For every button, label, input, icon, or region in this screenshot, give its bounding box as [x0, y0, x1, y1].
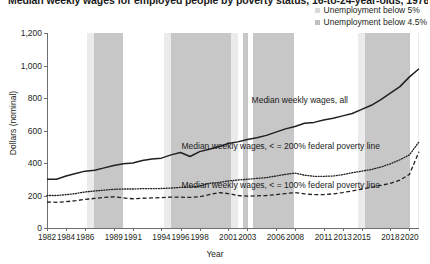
x-axis-tick-label: 1991 — [124, 233, 142, 242]
x-axis-tick-label: 2006 — [267, 233, 285, 242]
x-axis-tick-label: 2011 — [315, 233, 333, 242]
x-axis-tick — [228, 228, 229, 231]
x-axis-tick — [47, 228, 48, 231]
series-line — [47, 69, 419, 180]
x-axis-tick-label: 1994 — [152, 233, 170, 242]
y-axis-tick-label: 0 — [37, 223, 42, 233]
legend-item: Unemployment below 4.5% — [315, 17, 427, 27]
x-axis-title: Year — [0, 249, 430, 259]
x-axis-tick — [247, 228, 248, 231]
x-axis-tick — [343, 228, 344, 231]
legend-label: Unemployment below 4.5% — [324, 17, 427, 27]
x-axis-tick — [114, 228, 115, 231]
x-axis-tick-label: 1984 — [57, 233, 75, 242]
x-axis-tick — [66, 228, 67, 231]
x-axis-tick-label: 1982 — [38, 233, 56, 242]
y-axis-labels: 02004006008001,0001,200 — [0, 0, 42, 264]
x-axis-tick — [276, 228, 277, 231]
series-annotation: Median weekly wages, all — [252, 95, 348, 105]
x-axis-tick-label: 2020 — [400, 233, 418, 242]
x-axis-tick-label: 1989 — [105, 233, 123, 242]
series-annotation: Median weekly wages, < = 100% federal po… — [181, 180, 379, 190]
x-axis-tick — [200, 228, 201, 231]
x-axis-tick-label: 1996 — [171, 233, 189, 242]
y-axis-tick-label: 400 — [28, 158, 42, 168]
x-axis-tick-label: 2003 — [238, 233, 256, 242]
x-axis-tick-label: 2015 — [353, 233, 371, 242]
y-axis-tick-label: 200 — [28, 191, 42, 201]
x-axis-tick — [85, 228, 86, 231]
series-line — [47, 152, 419, 203]
y-axis-title: Dollars (nominal) — [8, 58, 18, 188]
legend-item: Unemployment below 5% — [315, 5, 420, 15]
x-axis-tick-label: 2001 — [219, 233, 237, 242]
x-axis-tick — [390, 228, 391, 231]
legend-label: Unemployment below 5% — [324, 5, 420, 15]
legend-swatch-unemployment-below-4-5 — [315, 20, 320, 25]
x-axis-line — [47, 228, 419, 229]
x-axis-tick-label: 1986 — [76, 233, 94, 242]
legend-swatch-unemployment-below-5 — [315, 8, 320, 13]
x-axis-tick — [409, 228, 410, 231]
y-axis-tick-label: 800 — [28, 93, 42, 103]
y-axis-tick-label: 1,000 — [21, 61, 42, 71]
chart-figure: Median weekly wages for employed people … — [0, 0, 430, 264]
series-layer — [47, 33, 419, 228]
x-axis-tick-label: 2008 — [286, 233, 304, 242]
x-axis-tick — [295, 228, 296, 231]
chart-legend: Unemployment below 5% Unemployment below… — [315, 5, 427, 27]
x-axis-tick — [161, 228, 162, 231]
y-axis-tick-label: 1,200 — [21, 28, 42, 38]
x-axis-tick-label: 2013 — [334, 233, 352, 242]
x-axis-tick-label: 2018 — [381, 233, 399, 242]
series-annotation: Median weekly wages, < = 200% federal po… — [181, 141, 379, 151]
x-axis-tick — [362, 228, 363, 231]
x-axis-tick — [324, 228, 325, 231]
x-axis-tick-label: 1998 — [191, 233, 209, 242]
x-axis-tick — [181, 228, 182, 231]
x-axis-tick — [133, 228, 134, 231]
y-axis-tick-label: 600 — [28, 126, 42, 136]
